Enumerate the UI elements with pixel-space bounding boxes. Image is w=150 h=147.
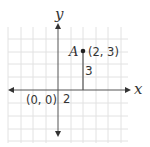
y-axis-up-arrow-icon <box>55 23 61 29</box>
x-axis-label: x <box>134 80 143 98</box>
vertical-distance-label: 3 <box>85 64 93 78</box>
horizontal-distance-label: 2 <box>63 92 70 106</box>
y-axis-label: y <box>54 5 64 23</box>
origin-label: (0, 0) <box>26 93 57 107</box>
point-a-marker <box>81 49 86 54</box>
x-axis-right-arrow-icon <box>125 87 131 93</box>
y-axis-down-arrow-icon <box>55 131 61 137</box>
x-axis-left-arrow-icon <box>8 87 14 93</box>
point-a-name: A <box>68 44 78 59</box>
y-axis <box>55 23 61 137</box>
point-a-coords: (2, 3) <box>88 45 119 59</box>
coordinate-plane: y x A (2, 3) 3 (0, 0) 2 <box>0 0 150 147</box>
